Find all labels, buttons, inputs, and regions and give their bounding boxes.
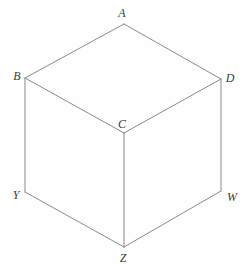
vertex-label-w: W xyxy=(227,191,237,203)
vertex-label-y: Y xyxy=(13,189,20,201)
vertex-label-b: B xyxy=(13,70,20,82)
cube-wireframe-svg xyxy=(0,0,251,276)
vertex-label-c: C xyxy=(118,118,126,130)
vertex-label-z: Z xyxy=(120,252,127,264)
cube-edge-bc xyxy=(25,78,124,133)
cube-edge-cd xyxy=(124,79,221,133)
cube-edge-ad xyxy=(124,24,221,79)
cube-edge-zw xyxy=(124,191,221,247)
cube-edge-yz xyxy=(25,192,124,247)
cube-edge-ab xyxy=(25,24,124,78)
cube-diagram-figure: ABDCYWZ xyxy=(0,0,251,276)
vertex-label-d: D xyxy=(226,72,235,84)
cube-edges-group xyxy=(25,24,221,247)
vertex-label-a: A xyxy=(118,7,125,19)
